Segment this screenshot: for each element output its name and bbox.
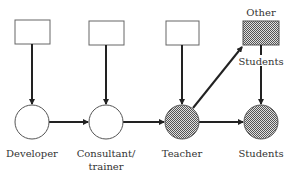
edge-teacher-other-students xyxy=(193,47,242,108)
node-students xyxy=(244,105,278,139)
node-consultant xyxy=(89,105,123,139)
label-teacher: Teacher xyxy=(162,148,203,159)
label-other: Other xyxy=(246,7,276,18)
label-consultant: Consultant/ xyxy=(77,148,136,159)
node-teacher xyxy=(165,105,199,139)
label-trainer: trainer xyxy=(88,161,123,172)
input-box-consultant xyxy=(89,21,124,45)
other-students-box xyxy=(243,21,279,45)
label-developer: Developer xyxy=(6,148,58,159)
flow-diagram: Other Students Developer Consultant/ tra… xyxy=(0,0,295,175)
label-students: Students xyxy=(238,148,283,159)
label-other-students: Students xyxy=(238,56,283,67)
input-box-developer xyxy=(15,20,50,44)
node-developer xyxy=(15,105,49,139)
input-box-teacher xyxy=(166,21,199,45)
